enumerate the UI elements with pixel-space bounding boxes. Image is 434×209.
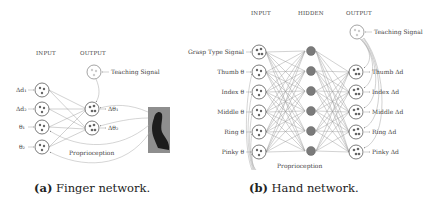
finger-input-arrows [28,90,34,147]
hand-teaching-signal-label: Teaching Signal [374,28,423,36]
hand-hidden-node [307,127,316,136]
finger-teaching-signal-node [87,65,101,79]
hand-hidden-node [307,87,316,96]
caption-label-a: (a) [34,181,52,195]
finger-output-header: OUTPUT [80,50,106,56]
hand-output-label: Middle Δd [372,108,403,115]
finger-output-nodes [85,102,99,135]
hand-output-node [349,105,363,119]
hand-output-node [349,85,363,99]
finger-input-label: θ₂ [19,143,26,150]
hand-output-node [349,65,363,79]
finger-proprioception-label: Proprioception [69,149,114,157]
hand-output-arrows [364,72,370,152]
caption-label-b: (b) [249,181,268,195]
hand-network-caption: (b) Hand network. [249,181,359,195]
hand-input-node [252,85,266,99]
diagram-canvas: INPUT OUTPUT Teaching Signal [0,0,434,209]
hand-output-label: Thumb Δd [372,68,404,75]
finger-input-nodes [35,83,49,154]
hand-input-node [252,65,266,79]
hand-input-header: INPUT [251,10,271,16]
finger-teaching-signal-label: Teaching Signal [111,68,160,76]
hand-input-label: Thumb θ [217,68,244,75]
hand-hidden-node [307,107,316,116]
hand-output-node [349,145,363,159]
finger-network: INPUT OUTPUT Teaching Signal [16,50,170,163]
hand-input-nodes [252,45,266,159]
robot-finger-photo [148,107,170,153]
hand-hidden-node [307,47,316,56]
hand-output-node [349,125,363,139]
hand-output-nodes [349,65,363,159]
caption-text-a: Finger network. [56,181,150,195]
hand-hidden-node [307,147,316,156]
finger-input-node [35,140,49,154]
hand-teaching-signal-node [350,25,364,39]
hand-output-label: Ring Δd [372,128,396,136]
hand-input-label: Index θ [221,88,244,95]
finger-network-caption: (a) Finger network. [34,181,150,195]
hand-hidden-nodes [307,47,316,156]
hand-input-node [252,125,266,139]
finger-input-label: Δd₁ [16,86,27,93]
finger-input-node [35,102,49,116]
hand-network: INPUT HIDDEN OUTPUT Teaching Signal [188,10,423,170]
hand-hidden-output-connections [316,51,349,152]
finger-input-label: Δd₂ [16,105,27,112]
hand-output-header: OUTPUT [346,10,372,16]
hand-hidden-node [307,67,316,76]
finger-output-label: Δθ₂ [108,124,119,131]
finger-input-node [35,120,49,134]
hand-output-label: Index Δd [372,88,399,95]
finger-output-node [85,121,99,135]
hand-input-label: Grasp Type Signal [188,48,244,56]
finger-output-node [85,102,99,116]
finger-connections [49,90,85,147]
hand-input-label: Ring θ [224,128,244,136]
hand-hidden-header: HIDDEN [298,10,324,16]
finger-input-label: θ₁ [19,123,25,130]
hand-input-node [252,45,266,59]
hand-input-hidden-connections [266,51,305,152]
finger-input-node [35,83,49,97]
hand-input-node [252,105,266,119]
hand-input-label: Pinky θ [222,148,245,156]
hand-input-label: Middle θ [217,108,244,115]
hand-output-label: Pinky Δd [372,148,399,156]
hand-proprioception-label: Proprioception [277,162,322,170]
finger-input-header: INPUT [36,50,56,56]
hand-input-node [252,145,266,159]
caption-text-b: Hand network. [272,181,359,195]
